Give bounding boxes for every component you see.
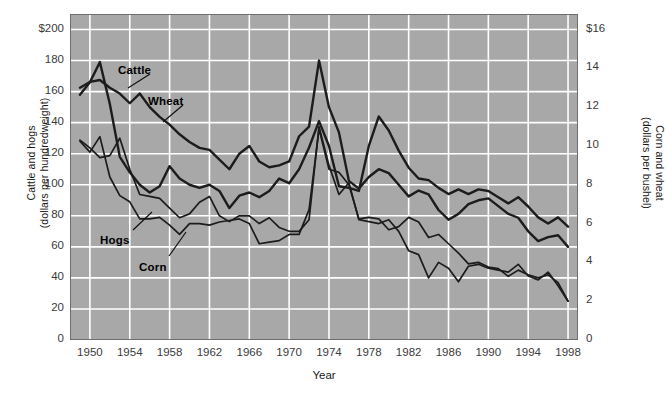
x-axis-title: Year [294,369,354,381]
x-axis-tick: 1978 [347,346,391,358]
y-axis-left-title: Cattle and hogs (dollars per hundredweig… [25,73,51,253]
x-axis-tick: 1986 [427,346,471,358]
y-axis-left-tick: $200 [14,22,64,34]
y-axis-right-tick: 6 [586,216,636,228]
data-lines [70,14,578,340]
y-axis-right-tick: $16 [586,22,636,34]
y-axis-right-tick: 0 [586,332,636,344]
y-axis-right-tick: 14 [586,60,636,72]
y-axis-left-tick: 40 [14,270,64,282]
y-axis-left-tick: 180 [14,53,64,65]
x-axis-tick: 1982 [387,346,431,358]
x-axis-tick: 1974 [307,346,351,358]
y-axis-right-tick: 4 [586,254,636,266]
y-axis-right-tick: 2 [586,293,636,305]
y-axis-left-tick: 0 [14,332,64,344]
series-line-hogs [80,129,568,301]
x-axis-tick: 1994 [506,346,550,358]
x-axis-tick: 1950 [68,346,112,358]
y-axis-left-title-line1: Cattle and hogs [25,73,38,253]
series-label-corn: Corn [139,261,167,273]
series-line-corn [80,127,568,302]
series-label-cattle: Cattle [118,64,151,76]
y-axis-right-title: Corn and wheat (dollars per bushel) [640,73,666,253]
x-axis-tick: 1990 [466,346,510,358]
y-axis-right-title-line1: Corn and wheat [653,73,666,253]
y-axis-left-tick: 20 [14,301,64,313]
y-axis-right-tick: 8 [586,177,636,189]
x-axis-tick: 1958 [148,346,192,358]
y-axis-left-title-line2: (dollars per hundredweight) [38,73,51,253]
x-axis-tick: 1966 [227,346,271,358]
y-axis-right-title-line2: (dollars per bushel) [640,73,653,253]
y-axis-right-tick: 10 [586,138,636,150]
series-label-hogs: Hogs [100,234,130,246]
x-axis-tick: 1954 [108,346,152,358]
x-axis-tick: 1970 [267,346,311,358]
series-label-wheat: Wheat [148,95,184,107]
y-axis-right-tick: 12 [586,99,636,111]
x-axis-tick: 1998 [546,346,590,358]
x-axis-tick: 1962 [187,346,231,358]
